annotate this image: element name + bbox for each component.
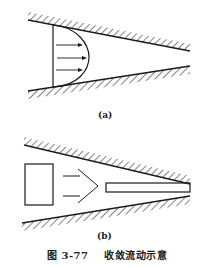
- top-wall-hatch-a: [28, 12, 190, 51]
- top-wall-a: [28, 20, 190, 51]
- velocity-arrows: [56, 43, 87, 72]
- thin-plate: [106, 183, 190, 192]
- caption-title: 收敛流动示意: [104, 250, 167, 261]
- figure-caption: 图 3-77 收敛流动示意: [47, 247, 167, 262]
- panel-b-diagram: [22, 137, 190, 231]
- bottom-wall-hatch-b: [22, 196, 190, 231]
- top-wall-hatch-b: [24, 137, 190, 184]
- panel-b-label: (b): [97, 231, 112, 241]
- bottom-wall-hatch-a: [28, 66, 190, 99]
- bottom-wall-a: [28, 66, 190, 91]
- bottom-wall-b: [22, 196, 190, 223]
- panel-a-label: (a): [98, 110, 112, 120]
- panel-a-diagram: [28, 12, 190, 99]
- velocity-profile-curve: [53, 25, 89, 87]
- figure-canvas: [0, 0, 204, 268]
- caption-number: 图 3-77: [47, 250, 89, 261]
- block-shape: [25, 164, 53, 205]
- chevron-arrow-head: [78, 169, 98, 203]
